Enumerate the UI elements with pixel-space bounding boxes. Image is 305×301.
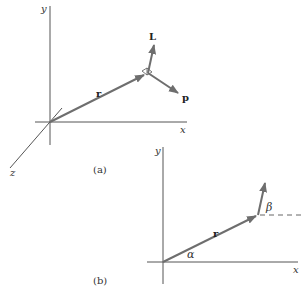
caption-a: (a)	[93, 164, 107, 175]
x-axis-label-a: x	[180, 124, 186, 135]
figure-a: y x z r L p (a)	[9, 3, 189, 178]
y-axis-label-b: y	[154, 145, 161, 156]
z-axis-a	[10, 108, 62, 168]
r-label-a: r	[96, 88, 102, 99]
alpha-label: α	[187, 248, 195, 261]
direction-vector-b	[258, 183, 265, 215]
beta-label: β	[265, 201, 272, 214]
p-vector	[148, 73, 178, 93]
diagram-canvas: y x z r L p (a) y x r α β (b)	[0, 0, 305, 301]
y-axis-label-a: y	[40, 3, 47, 14]
r-label-b: r	[213, 228, 219, 239]
z-axis-label-a: z	[9, 167, 16, 178]
x-axis-label-b: x	[293, 264, 299, 275]
figure-b: y x r α β (b)	[93, 145, 304, 286]
p-label: p	[182, 92, 189, 103]
L-label: L	[149, 31, 156, 42]
caption-b: (b)	[93, 275, 107, 286]
r-vector-b	[163, 216, 256, 262]
L-vector	[148, 45, 154, 73]
